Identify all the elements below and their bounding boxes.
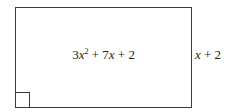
side-label-rest: + 2 <box>201 47 221 62</box>
plus-sign: + <box>115 47 129 62</box>
area-expression-label: 3x2 + 7x + 2 <box>15 47 192 63</box>
right-angle-marker-icon <box>15 92 30 107</box>
constant: 2 <box>128 47 135 62</box>
side-length-label: x + 2 <box>195 47 221 63</box>
plus-sign: + <box>88 47 102 62</box>
